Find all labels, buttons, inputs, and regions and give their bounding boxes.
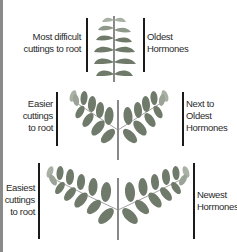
middle-right-divider [182, 92, 184, 146]
bottom-left-divider [38, 163, 40, 239]
middle-left-label: Easier cuttings to root [23, 98, 53, 134]
top-right-divider [143, 18, 145, 72]
bottom-left-label: Easiest cuttings to root [5, 182, 35, 218]
middle-right-label: Next to Oldest Hormones [186, 98, 227, 134]
top-right-label: Oldest Hormones [147, 31, 188, 55]
middle-left-divider [56, 92, 58, 146]
bottom-plant-icon [45, 165, 191, 240]
bottom-right-divider [193, 163, 195, 239]
top-plant-icon [94, 16, 136, 82]
bottom-right-label: Newest Hormones [197, 189, 237, 213]
middle-plant-icon [68, 89, 170, 160]
top-left-divider [86, 18, 88, 72]
top-left-label: Most difficult cuttings to root [23, 31, 81, 55]
